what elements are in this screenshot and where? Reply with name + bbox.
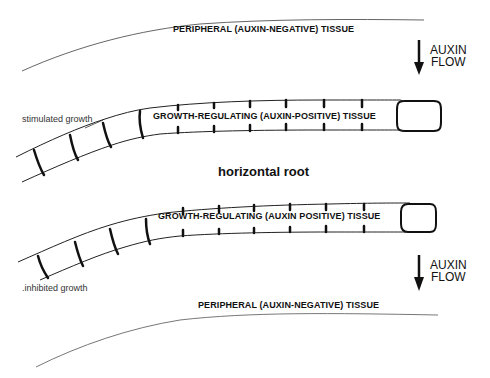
top-auxin-flow-arrow-icon (414, 40, 424, 75)
bottom-peripheral-curve (36, 314, 438, 367)
top-cell-row-lower-wall (22, 130, 400, 182)
bottom-auxin-flow-arrow-icon (414, 255, 424, 291)
diagram-title: horizontal root (218, 164, 309, 179)
bottom-terminal-cell (401, 204, 436, 232)
top-auxin-flow-label: AUXIN FLOW (430, 44, 467, 68)
bottom-cell-row-lower-wall (40, 232, 410, 280)
stimulated-growth-label: stimulated growth (22, 114, 93, 124)
inhibited-growth-label: .inhibited growth (22, 283, 88, 293)
top-growth-regulating-label: GROWTH-REGULATING (AUXIN-POSITIVE) TISSU… (153, 111, 376, 121)
bottom-growth-regulating-label: GROWTH-REGULATING (AUXIN POSITIVE) TISSU… (158, 211, 380, 221)
top-terminal-cell (397, 101, 441, 131)
diagram-drawing (0, 0, 490, 378)
bottom-auxin-flow-label: AUXIN FLOW (430, 259, 467, 283)
top-peripheral-label: PERIPHERAL (AUXIN-NEGATIVE) TISSUE (173, 24, 354, 34)
bottom-flow-label-line2: FLOW (430, 271, 467, 283)
bottom-peripheral-label: PERIPHERAL (AUXIN-NEGATIVE) TISSUE (198, 300, 379, 310)
auxin-flow-diagram: PERIPHERAL (AUXIN-NEGATIVE) TISSUE AUXIN… (0, 0, 490, 378)
top-flow-label-line2: FLOW (430, 56, 467, 68)
